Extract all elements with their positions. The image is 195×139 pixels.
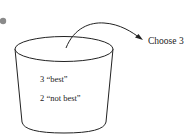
diagram-canvas: Choose 3 3 “best” 2 “not best” (0, 0, 195, 139)
bucket-rim (15, 37, 113, 62)
bucket-content-not-best: 2 “not best” (40, 93, 81, 103)
arrow-label: Choose 3 (148, 36, 184, 46)
bullet-dot (0, 18, 6, 24)
bucket-content-best: 3 “best” (40, 74, 68, 84)
